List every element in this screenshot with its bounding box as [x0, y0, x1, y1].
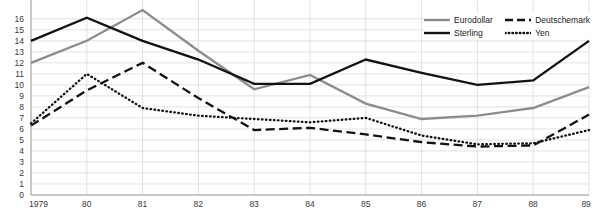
y-tick-label: 8 — [6, 102, 24, 111]
legend-swatch-deutschemark — [505, 15, 531, 25]
chart-legend: Eurodollar Deutschemark Sterling Yen — [424, 13, 590, 39]
x-tick-label: 80 — [82, 200, 91, 209]
y-tick-label: 13 — [6, 47, 24, 56]
x-tick-label: 81 — [138, 200, 147, 209]
y-tick-label: 15 — [6, 25, 24, 34]
legend-label-eurodollar: Eurodollar — [454, 15, 493, 25]
y-tick-label: 7 — [6, 113, 24, 122]
y-tick-label: 16 — [6, 14, 24, 23]
x-tick-label: 89 — [581, 200, 590, 209]
y-tick-label: 6 — [6, 124, 24, 133]
x-tick-label: 84 — [305, 200, 314, 209]
legend-label-deutschemark: Deutschemark — [535, 15, 590, 25]
x-tick-label: 88 — [528, 200, 537, 209]
y-tick-label: 2 — [6, 168, 24, 177]
y-tick-label: 12 — [6, 58, 24, 67]
legend-item-eurodollar[interactable]: Eurodollar — [424, 13, 505, 26]
y-tick-label: 3 — [6, 157, 24, 166]
legend-swatch-eurodollar — [424, 15, 450, 25]
legend-label-yen: Yen — [535, 28, 549, 38]
x-tick-label: 87 — [473, 200, 482, 209]
legend-item-sterling[interactable]: Sterling — [424, 26, 505, 39]
y-tick-label: 11 — [6, 69, 24, 78]
legend-item-deutschemark[interactable]: Deutschemark — [505, 13, 590, 26]
y-tick-label: 4 — [6, 146, 24, 155]
y-tick-label: 5 — [6, 135, 24, 144]
legend-swatch-sterling — [424, 28, 450, 38]
legend-swatch-yen — [505, 28, 531, 38]
x-tick-label: 83 — [249, 200, 258, 209]
y-tick-label: 14 — [6, 36, 24, 45]
interest-rate-line-chart: 012345678910111213141516 197980818283848… — [0, 0, 595, 215]
x-tick-label: 1979 — [29, 200, 48, 209]
y-tick-label: 1 — [6, 179, 24, 188]
y-tick-label: 9 — [6, 91, 24, 100]
x-tick-label: 82 — [194, 200, 203, 209]
legend-label-sterling: Sterling — [454, 28, 483, 38]
legend-item-yen[interactable]: Yen — [505, 26, 590, 39]
x-tick-label: 86 — [417, 200, 426, 209]
y-tick-label: 0 — [6, 191, 24, 200]
x-tick-label: 85 — [361, 200, 370, 209]
y-tick-label: 10 — [6, 80, 24, 89]
